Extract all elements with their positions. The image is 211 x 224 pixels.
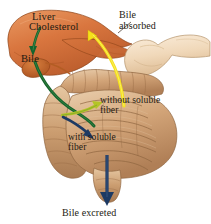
bile-circulation-figure: Liver Cholesterol Bile Bile absorbed wit… (0, 0, 211, 224)
label-without-soluble-fiber: without soluble fiber (100, 96, 160, 116)
label-bile-absorbed: Bile absorbed (119, 10, 156, 31)
label-cholesterol: Cholesterol (29, 21, 79, 32)
label-bile: Bile (21, 53, 39, 64)
label-with-soluble-fiber: with soluble fiber (68, 133, 116, 153)
label-bile-excreted: Bile excreted (62, 208, 116, 219)
